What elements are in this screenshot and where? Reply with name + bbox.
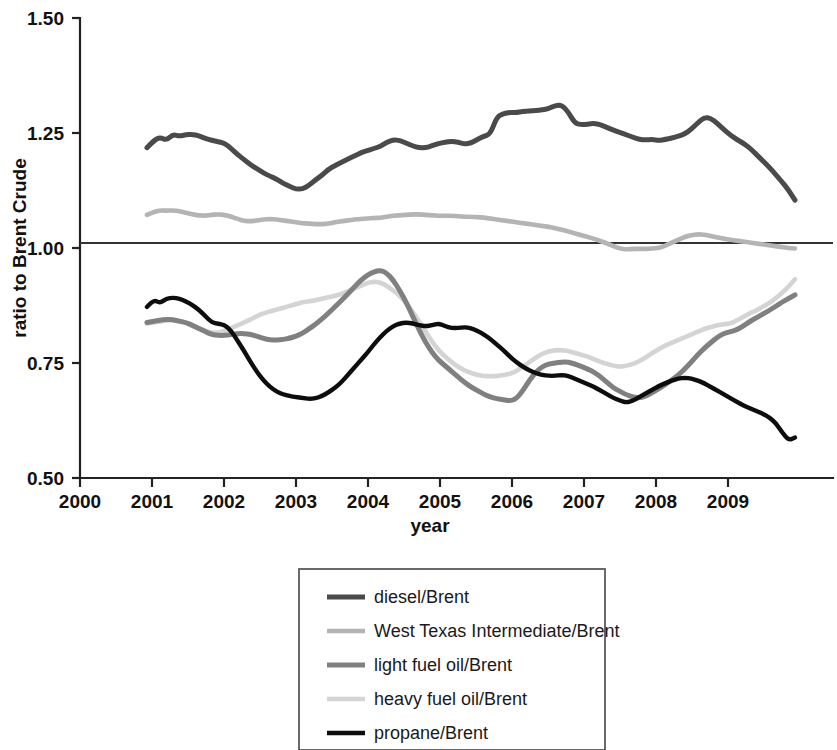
series-lines [147,105,795,439]
y-axis-tick-labels: 0.500.751.001.251.50 [27,8,64,489]
legend-label-2: light fuel oil/Brent [374,655,512,675]
x-tick-label: 2001 [131,491,174,512]
y-tick-label: 1.50 [27,8,64,29]
x-tick-label: 2007 [563,491,605,512]
series-line-4 [147,298,795,439]
y-axis-title: ratio to Brent Crude [9,158,30,337]
y-tick-label: 1.00 [27,238,64,259]
x-tick-label: 2003 [275,491,317,512]
y-tick-label: 1.25 [27,123,64,144]
x-tick-label: 2004 [347,491,390,512]
x-tick-label: 2002 [203,491,245,512]
x-tick-label: 2005 [419,491,462,512]
chart-figure: 0.500.751.001.251.50 2000200120022003200… [0,0,837,750]
x-tick-label: 2009 [707,491,749,512]
x-tick-label: 2008 [635,491,677,512]
line-chart-plot: 0.500.751.001.251.50 2000200120022003200… [0,0,837,750]
legend-label-3: heavy fuel oil/Brent [374,689,527,709]
y-axis-ticks [72,18,80,478]
x-tick-label: 2000 [59,491,101,512]
legend-label-1: West Texas Intermediate/Brent [374,621,619,641]
series-line-0 [147,105,795,200]
x-axis-tick-labels: 2000200120022003200420052006200720082009 [59,491,749,512]
x-tick-label: 2006 [491,491,533,512]
y-tick-label: 0.75 [27,353,64,374]
y-tick-label: 0.50 [27,468,64,489]
x-axis-title: year [410,515,450,536]
legend-label-0: diesel/Brent [374,587,469,607]
x-axis-ticks [80,478,728,487]
legend-entries: diesel/BrentWest Texas Intermediate/Bren… [327,587,619,743]
legend-label-4: propane/Brent [374,723,488,743]
